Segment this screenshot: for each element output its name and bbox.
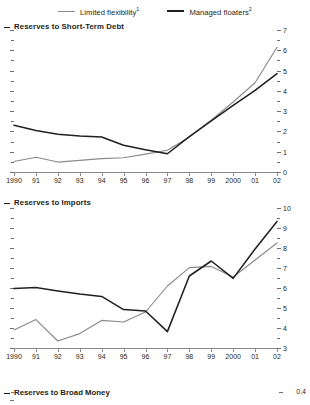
y-axis-label: 7 [283, 265, 287, 272]
y-tick-3 [279, 392, 283, 393]
y-tick-major [277, 308, 281, 309]
y-axis-top-label-3: 0.4 [296, 388, 306, 395]
left-tick-column-1 [0, 30, 14, 172]
x-axis-label: 94 [98, 177, 106, 184]
y-axis-label: 10 [283, 205, 291, 212]
y-axis-label: 5 [283, 67, 287, 74]
y-tick-minor [277, 121, 280, 122]
y-tick-minor [277, 60, 280, 61]
x-axis-ticks-2: 199091929394959697989920000102 [14, 349, 277, 363]
x-axis-label: 1990 [6, 177, 22, 184]
x-axis-label: 02 [273, 353, 281, 360]
legend-item-limited-flexibility: Limited flexibility1 [58, 6, 139, 17]
y-axis-label: 3 [283, 345, 287, 352]
left-tick-column-3 [0, 388, 14, 405]
y-tick-minor [277, 218, 280, 219]
series-lines-2 [14, 208, 277, 348]
x-axis-label: 98 [185, 177, 193, 184]
y-tick-major [277, 152, 281, 153]
y-tick-minor [277, 338, 280, 339]
y-tick-minor [277, 318, 280, 319]
chart-legend: Limited flexibility1 Managed floaters2 [0, 0, 310, 22]
x-axis-label: 97 [164, 353, 172, 360]
y-tick-major [277, 268, 281, 269]
x-axis-label: 99 [207, 177, 215, 184]
y-tick-left-3 [10, 400, 15, 401]
chart-title-2: Reserves to Imports [14, 198, 91, 207]
legend-line-icon-gray [58, 11, 75, 12]
y-tick-minor [277, 238, 280, 239]
x-axis-label: 95 [120, 177, 128, 184]
y-tick-major [277, 348, 281, 349]
plot-area-2 [14, 208, 277, 348]
y-axis-label: 8 [283, 245, 287, 252]
title-dash-icon-1 [4, 27, 10, 28]
x-axis-label: 96 [142, 177, 150, 184]
y-axis-label: 6 [283, 285, 287, 292]
y-axis-1: 01234567 [277, 30, 310, 172]
title-dash-icon-2 [4, 203, 10, 204]
chart-title-3: Reserves to Broad Money [14, 388, 110, 397]
plot-area-1 [14, 30, 277, 172]
y-tick-major [277, 91, 281, 92]
y-tick-minor [277, 298, 280, 299]
x-axis-label: 01 [251, 353, 259, 360]
series-line-limited-flexibility [14, 47, 277, 162]
x-axis-label: 96 [142, 353, 150, 360]
y-tick-major [277, 71, 281, 72]
x-axis-label: 95 [120, 353, 128, 360]
chart-page: Limited flexibility1 Managed floaters2 R… [0, 0, 310, 405]
y-axis-label: 5 [283, 305, 287, 312]
y-axis-label: 0 [283, 169, 287, 176]
legend-label-managed-floaters: Managed floaters2 [189, 6, 252, 17]
x-axis-label: 91 [32, 353, 40, 360]
x-axis-label: 2000 [225, 177, 241, 184]
x-axis-label: 92 [54, 353, 62, 360]
legend-line-icon-black [167, 10, 184, 12]
legend-item-managed-floaters: Managed floaters2 [167, 6, 252, 17]
y-tick-minor [277, 40, 280, 41]
chart-panel-reserves-to-broad-money: Reserves to Broad Money 0.4 [0, 380, 310, 405]
y-tick-minor [277, 258, 280, 259]
chart-panel-reserves-to-imports: Reserves to Imports 19909192939495969798… [0, 198, 310, 380]
y-tick-minor [277, 101, 280, 102]
x-axis-label: 99 [207, 353, 215, 360]
left-tick-column-2 [0, 208, 14, 348]
y-tick-major [277, 111, 281, 112]
y-tick-minor [277, 162, 280, 163]
y-axis-label: 1 [283, 148, 287, 155]
y-axis-label: 3 [283, 108, 287, 115]
x-axis-label: 91 [32, 177, 40, 184]
x-axis-label: 93 [76, 177, 84, 184]
series-line-managed-floaters [14, 74, 277, 154]
y-tick-major [277, 30, 281, 31]
y-tick-major [277, 50, 281, 51]
x-axis-label: 2000 [225, 353, 241, 360]
series-lines-1 [14, 30, 277, 172]
y-tick-left-3 [11, 392, 14, 393]
x-axis-label: 97 [164, 177, 172, 184]
y-axis-label: 7 [283, 27, 287, 34]
y-axis-label: 6 [283, 47, 287, 54]
y-tick-major [277, 208, 281, 209]
x-axis-label: 01 [251, 177, 259, 184]
x-axis-label: 93 [76, 353, 84, 360]
y-tick-major [277, 288, 281, 289]
y-axis-2: 345678910 [277, 208, 310, 348]
series-line-limited-flexibility [14, 243, 277, 341]
y-tick-minor [277, 81, 280, 82]
x-axis-label: 1990 [6, 353, 22, 360]
series-line-managed-floaters [14, 222, 277, 332]
y-axis-label: 9 [283, 225, 287, 232]
y-tick-minor [277, 142, 280, 143]
x-axis-ticks-1: 199091929394959697989920000102 [14, 173, 277, 187]
y-tick-minor [277, 278, 280, 279]
x-axis-label: 98 [185, 353, 193, 360]
y-axis-label: 4 [283, 87, 287, 94]
y-tick-major [277, 131, 281, 132]
legend-label-limited-flexibility: Limited flexibility1 [80, 6, 139, 17]
y-axis-label: 4 [283, 325, 287, 332]
y-tick-major [277, 228, 281, 229]
x-axis-label: 92 [54, 177, 62, 184]
x-axis-label: 02 [273, 177, 281, 184]
